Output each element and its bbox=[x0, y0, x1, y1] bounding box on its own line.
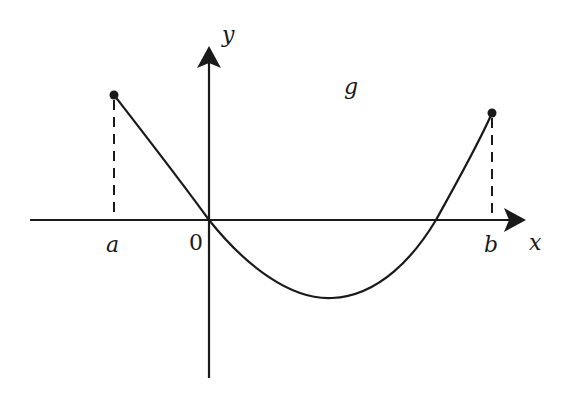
origin-label: 0 bbox=[189, 230, 203, 255]
b-label: b bbox=[484, 232, 498, 257]
x-axis-label: x bbox=[529, 230, 542, 255]
endpoint-a-dot bbox=[110, 91, 119, 100]
a-label: a bbox=[106, 232, 119, 257]
curve-g bbox=[114, 95, 492, 298]
function-graph: y g a 0 b x bbox=[0, 0, 564, 399]
endpoint-b-dot bbox=[488, 109, 497, 118]
y-axis-label: y bbox=[221, 22, 235, 47]
function-label: g bbox=[344, 74, 358, 99]
